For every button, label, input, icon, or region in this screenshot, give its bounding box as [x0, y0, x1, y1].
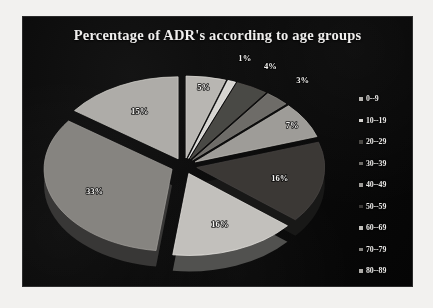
legend-swatch-icon [359, 140, 363, 144]
legend-swatch-icon [359, 162, 363, 166]
legend-item: 80--89 [352, 260, 413, 282]
pie-slice-label: 15% [131, 106, 148, 116]
pie-slice-label: 33% [86, 186, 103, 196]
pie-slice-label: 4% [264, 61, 277, 71]
chart-title: Percentage of ADR's according to age gro… [22, 27, 413, 44]
legend-item-label: 0--9 [366, 94, 379, 103]
legend-item-label: 70--79 [366, 245, 386, 254]
legend-item: 10--19 [352, 110, 413, 132]
legend-item-label: 10--19 [366, 116, 386, 125]
pie-slice-label: 3% [296, 75, 309, 85]
legend-swatch-icon [359, 205, 363, 209]
legend-item-label: 20--29 [366, 137, 386, 146]
legend-item-label: 50--59 [366, 202, 386, 211]
legend-item-label: 60--69 [366, 223, 386, 232]
pie-slice-label: 7% [286, 120, 299, 130]
legend-swatch-icon [359, 226, 363, 230]
legend-item: 60--69 [352, 217, 413, 239]
pie-slice-label: 5% [197, 82, 210, 92]
legend-item-label: 80--89 [366, 266, 386, 275]
legend-item: 0--9 [352, 88, 413, 110]
chart-panel: Percentage of ADR's according to age gro… [22, 16, 413, 287]
legend-item: 40--49 [352, 174, 413, 196]
pie-slices-layer [44, 76, 325, 255]
pie-slice-label: 16% [211, 219, 228, 229]
legend-item-label: 40--49 [366, 180, 386, 189]
pie-chart-svg: 5%1%4%3%7%16%16%33%15% [22, 38, 352, 283]
legend-swatch-icon [359, 119, 363, 123]
legend-item-label: 30--39 [366, 159, 386, 168]
pie-chart: 5%1%4%3%7%16%16%33%15% [22, 38, 352, 283]
pie-slice-label: 16% [271, 173, 288, 183]
legend-item: 50--59 [352, 196, 413, 218]
legend-swatch-icon [359, 269, 363, 273]
screenshot-root: Percentage of ADR's according to age gro… [0, 0, 433, 308]
legend-item: 20--29 [352, 131, 413, 153]
legend-item: 30--39 [352, 153, 413, 175]
pie-slice-label: 1% [238, 53, 251, 63]
legend-swatch-icon [359, 183, 363, 187]
legend-swatch-icon [359, 248, 363, 252]
chart-legend: 0--910--1920--2930--3940--4950--5960--69… [352, 88, 413, 282]
legend-item: 70--79 [352, 239, 413, 261]
legend-swatch-icon [359, 97, 363, 101]
